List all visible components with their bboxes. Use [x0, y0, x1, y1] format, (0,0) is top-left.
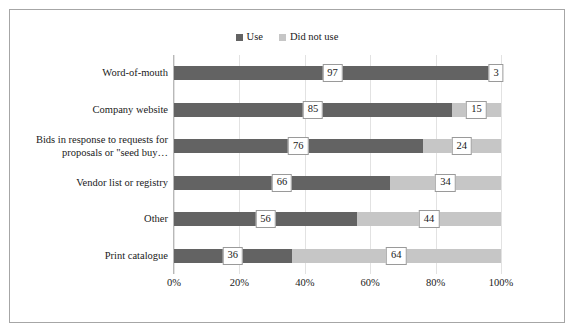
category-label: Company website [14, 104, 174, 117]
x-tick-label: 40% [295, 278, 314, 289]
x-tick-label: 20% [230, 278, 249, 289]
x-tick-label: 80% [426, 278, 445, 289]
legend-label: Use [247, 32, 263, 43]
category-label: Print catalogue [14, 250, 174, 263]
category-label-line: Print catalogue [14, 250, 168, 263]
bar-row[interactable]: 8515 [174, 92, 501, 129]
data-label: 85 [303, 101, 324, 119]
category-label-line: Word-of-mouth [14, 67, 168, 80]
chart-frame: UseDid not use Word-of-mouthCompany webs… [9, 9, 565, 323]
category-label: Word-of-mouth [14, 67, 174, 80]
bar-segment-did-not-use[interactable]: 34 [390, 176, 501, 190]
category-label: Bids in response to requests forproposal… [14, 134, 174, 159]
bar-row[interactable]: 5644 [174, 201, 501, 238]
data-label: 56 [255, 210, 276, 228]
legend-entry[interactable]: Did not use [279, 32, 338, 43]
category-label-line: Other [14, 213, 168, 226]
x-axis-tick-labels: 0%20%40%60%80%100% [174, 278, 501, 296]
bar-segment-did-not-use[interactable]: 24 [423, 139, 501, 153]
legend-swatch-icon [279, 34, 286, 41]
category-label: Other [14, 213, 174, 226]
chart-legend: UseDid not use [10, 32, 564, 43]
legend-swatch-icon [236, 34, 243, 41]
gridline [501, 55, 502, 274]
x-tick-label: 0% [167, 278, 181, 289]
data-label: 36 [223, 247, 244, 265]
bar-track: 6634 [174, 176, 501, 190]
bar-segment-did-not-use[interactable]: 64 [292, 249, 501, 263]
category-axis-labels: Word-of-mouthCompany websiteBids in resp… [10, 55, 174, 274]
bar-row[interactable]: 973 [174, 55, 501, 92]
legend-entry[interactable]: Use [236, 32, 263, 43]
bar-track: 973 [174, 66, 501, 80]
bar-segment-did-not-use[interactable]: 44 [357, 212, 501, 226]
bar-track: 3664 [174, 249, 501, 263]
legend-label: Did not use [290, 32, 338, 43]
data-label: 64 [386, 247, 407, 265]
bar-track: 8515 [174, 103, 501, 117]
bar-segment-use[interactable]: 36 [174, 249, 292, 263]
bar-segment-use[interactable]: 66 [174, 176, 390, 190]
bar-segment-use[interactable]: 85 [174, 103, 452, 117]
data-label: 34 [435, 174, 456, 192]
plot-area: 97385157624663456443664 [174, 55, 501, 274]
data-label: 66 [272, 174, 293, 192]
bar-row[interactable]: 3664 [174, 238, 501, 275]
bar-track: 7624 [174, 139, 501, 153]
bar-row[interactable]: 6634 [174, 165, 501, 202]
bar-track: 5644 [174, 212, 501, 226]
data-label: 15 [466, 101, 487, 119]
data-label: 24 [452, 137, 473, 155]
x-tick-label: 100% [489, 278, 514, 289]
category-label-line: Company website [14, 104, 168, 117]
bar-row[interactable]: 7624 [174, 128, 501, 165]
bar-segment-did-not-use[interactable]: 15 [452, 103, 501, 117]
category-label-line: proposals or "seed buy… [14, 146, 168, 159]
category-label: Vendor list or registry [14, 177, 174, 190]
data-label: 44 [419, 210, 440, 228]
bar-segment-use[interactable]: 97 [174, 66, 491, 80]
bar-segment-use[interactable]: 76 [174, 139, 423, 153]
data-label: 97 [322, 64, 343, 82]
category-label-line: Vendor list or registry [14, 177, 168, 190]
category-label-line: Bids in response to requests for [14, 134, 168, 147]
bar-segment-use[interactable]: 56 [174, 212, 357, 226]
bar-segment-did-not-use[interactable]: 3 [491, 66, 501, 80]
data-label: 3 [488, 64, 503, 82]
data-label: 76 [288, 137, 309, 155]
x-tick-label: 60% [361, 278, 380, 289]
